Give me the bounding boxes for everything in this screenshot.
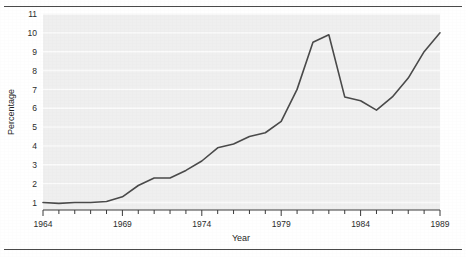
y-tick-label: 2 bbox=[32, 179, 37, 189]
x-axis-ticks: 196419691974197919841989 bbox=[34, 210, 450, 229]
x-tick-label: 1984 bbox=[351, 219, 370, 229]
x-tick-label: 1979 bbox=[272, 219, 291, 229]
y-tick-label: 11 bbox=[28, 9, 37, 19]
y-tick-label: 8 bbox=[32, 66, 37, 76]
y-tick-label: 9 bbox=[32, 47, 37, 57]
y-axis-title: Percentage bbox=[6, 89, 16, 135]
x-tick-label: 1974 bbox=[192, 219, 211, 229]
y-axis-ticks: 1234567891011 bbox=[28, 9, 38, 207]
y-tick-label: 6 bbox=[32, 103, 37, 113]
y-tick-label: 5 bbox=[32, 122, 37, 132]
x-axis-title: Year bbox=[232, 233, 250, 243]
line-chart: 1234567891011 196419691974197919841989 P… bbox=[0, 0, 466, 257]
y-tick-label: 3 bbox=[32, 160, 37, 170]
y-tick-label: 10 bbox=[28, 28, 38, 38]
x-tick-label: 1969 bbox=[113, 219, 132, 229]
x-tick-label: 1989 bbox=[431, 219, 450, 229]
chart-page: 1964-1989 1234567891011 1964196919741979… bbox=[0, 0, 466, 257]
x-tick-label: 1964 bbox=[34, 219, 53, 229]
plot-area-background bbox=[43, 14, 440, 210]
bottom-divider bbox=[4, 249, 462, 250]
y-tick-label: 7 bbox=[32, 85, 37, 95]
y-tick-label: 4 bbox=[32, 141, 37, 151]
y-tick-label: 1 bbox=[32, 198, 37, 208]
